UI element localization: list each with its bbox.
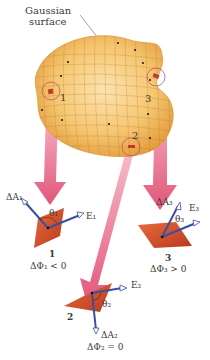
- angle-label-1: θ₁: [49, 209, 58, 218]
- field-vector-label-1: E₁: [86, 212, 96, 221]
- leader-line: [80, 15, 98, 38]
- surface-point-label-1: 1: [60, 93, 66, 103]
- surface-patch-1: [48, 89, 54, 95]
- angle-label-3: θ₃: [175, 215, 184, 224]
- field-vector-label-2: E₂: [131, 281, 141, 290]
- surface-point-label-2: 2: [132, 131, 138, 141]
- area-vector-label-3: ΔA₃: [156, 198, 173, 207]
- projection-arrow-2: [80, 155, 133, 308]
- label-gaussian: Gaussian: [25, 6, 71, 16]
- element-number-3: 3: [165, 254, 171, 263]
- surface-patch-2: [128, 145, 135, 148]
- flux-label-1: ΔΦ₁ < 0: [30, 262, 66, 271]
- flux-label-2: ΔΦ₂ = 0: [87, 343, 123, 352]
- field-vector-label-3: E₃: [189, 204, 199, 213]
- angle-label-2: θ₂: [102, 300, 111, 309]
- area-vector-label-2: ΔA₂: [101, 331, 118, 340]
- flux-label-3: ΔΦ₃ > 0: [150, 265, 186, 274]
- area-vector-label-1: ΔA₁: [6, 193, 23, 202]
- element-number-1: 1: [49, 250, 55, 259]
- surface-point-label-3: 3: [145, 94, 151, 104]
- label-surface: surface: [29, 17, 67, 27]
- element-number-2: 2: [67, 313, 73, 322]
- area-vector-1: [24, 201, 48, 228]
